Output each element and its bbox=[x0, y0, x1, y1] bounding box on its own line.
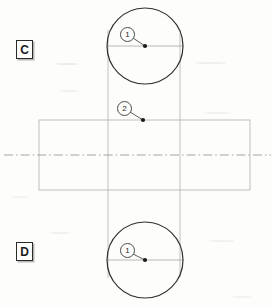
balloon-callout-mid-2: 2 bbox=[117, 101, 132, 116]
balloon-callout-bottom-1-text: 1 bbox=[125, 247, 129, 255]
view-label-c-text: C bbox=[20, 44, 29, 56]
view-label-d: D bbox=[16, 242, 33, 261]
leader-dot-top-1 bbox=[143, 44, 147, 48]
balloon-callout-bottom-1: 1 bbox=[120, 243, 135, 258]
balloon-leaders-group bbox=[130, 38, 147, 262]
balloon-callout-mid-2-text: 2 bbox=[122, 105, 126, 113]
leader-line-mid-2 bbox=[130, 112, 143, 120]
projection-lines-group bbox=[108, 30, 180, 278]
drawing-sheet: C D 1 2 1 bbox=[0, 0, 273, 307]
circle-diameter-lines-group bbox=[107, 46, 183, 260]
view-label-d-text: D bbox=[20, 246, 29, 258]
leader-dot-bottom-1 bbox=[143, 258, 147, 262]
technical-drawing-canvas bbox=[0, 0, 273, 307]
leader-dot-mid-2 bbox=[141, 118, 145, 122]
balloon-callout-top-1: 1 bbox=[120, 27, 135, 42]
view-label-c: C bbox=[16, 40, 33, 59]
balloon-callout-top-1-text: 1 bbox=[125, 31, 129, 39]
leader-line-top-1 bbox=[133, 38, 145, 46]
